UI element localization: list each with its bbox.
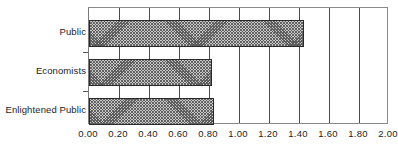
bar-public	[89, 20, 304, 47]
x-axis-tick-label: 1.60	[318, 128, 337, 139]
x-axis-tick-label: 0.40	[138, 128, 157, 139]
bar-chart: Public Economists Enlightened Public 0.0…	[0, 0, 398, 151]
x-axis-tick-label: 2.00	[378, 128, 397, 139]
x-axis-tick-label: 1.40	[288, 128, 307, 139]
bar-enlightened-public	[89, 98, 214, 125]
x-axis-tick-label: 1.80	[348, 128, 367, 139]
gridline-1.60	[329, 8, 330, 123]
category-label-enlightened-public: Enlightened Public	[6, 105, 87, 115]
gridline-1.80	[359, 8, 360, 123]
x-axis-tick-label: 0.80	[198, 128, 217, 139]
plot-area	[88, 7, 388, 124]
bar-economists	[89, 59, 212, 86]
category-label-public: Public	[60, 27, 86, 37]
x-axis-tick-label: 1.20	[258, 128, 277, 139]
x-axis-tick-label: 0.20	[108, 128, 127, 139]
x-axis-tick-label: 1.00	[228, 128, 247, 139]
category-label-economists: Economists	[36, 66, 86, 76]
x-axis-tick-label: 0.00	[78, 128, 97, 139]
x-axis-tick-label: 0.60	[168, 128, 187, 139]
